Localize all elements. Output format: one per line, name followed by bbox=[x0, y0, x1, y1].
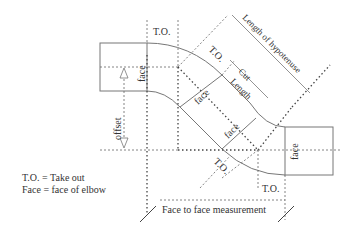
lower-elbow-outer bbox=[222, 149, 285, 175]
label-face-right: face bbox=[289, 143, 300, 160]
upper-elbow-inner bbox=[147, 91, 180, 107]
pipe-offset-diagram: T.O. T.O. T.O. T.O. face face face face … bbox=[0, 0, 351, 235]
label-face-left: face bbox=[136, 65, 147, 82]
label-to-bottom: T.O. bbox=[262, 183, 280, 194]
legend-face: Face = face of elbow bbox=[22, 184, 106, 196]
label-to-diag-upper: T.O. bbox=[207, 44, 227, 64]
diag-wall-lower bbox=[180, 107, 222, 149]
label-to-top: T.O. bbox=[153, 26, 171, 37]
label-offset: offset bbox=[112, 117, 123, 140]
lower-elbow-inner bbox=[250, 103, 285, 127]
label-face-upper-diag: face bbox=[192, 86, 212, 106]
legend: T.O. = Take out Face = face of elbow bbox=[22, 172, 106, 196]
legend-to: T.O. = Take out bbox=[22, 172, 106, 184]
label-face-lower-diag: face bbox=[222, 120, 242, 140]
label-face-to-face: Face to face measurement bbox=[162, 204, 266, 215]
label-hypotenuse: Length of hypotenuse bbox=[241, 12, 304, 75]
